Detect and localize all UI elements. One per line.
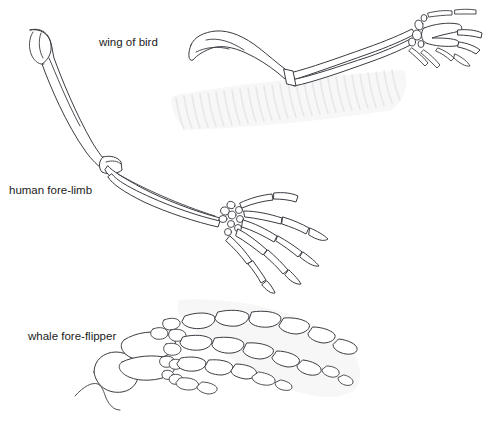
limb-diagram-canvas: wing of bird [0, 0, 488, 427]
whale-digit-row-4 [176, 378, 217, 394]
bird-alula-2 [455, 9, 476, 14]
bird-digit-major-1 [458, 30, 482, 38]
bird-alula [428, 11, 452, 17]
bird-wing-skeleton [189, 9, 482, 86]
human-forelimb-label: human fore-limb [9, 184, 92, 196]
bird-humerus [189, 31, 291, 79]
human-humerus [30, 29, 110, 170]
bird-digit-minor-3 [436, 48, 454, 61]
bird-wing-label: wing of bird [98, 36, 158, 48]
homologous-limbs-figure: wing of bird [0, 0, 488, 427]
bird-digit-tip [454, 54, 470, 66]
human-ulna [105, 166, 220, 224]
bird-digit-major-2 [458, 42, 480, 54]
whale-flipper-label: whale fore-flipper [27, 330, 116, 342]
human-digit-1 [240, 193, 298, 208]
bird-carpometacarpus [422, 23, 462, 46]
